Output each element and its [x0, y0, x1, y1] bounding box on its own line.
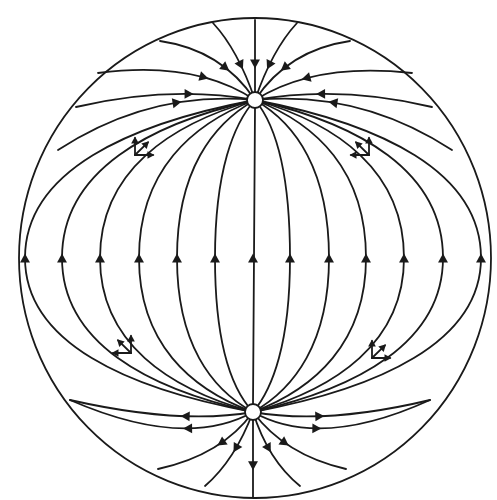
arrowhead-icon: [217, 436, 227, 445]
arrowhead-icon: [285, 254, 295, 263]
bottom-node-icon: [245, 404, 261, 420]
flow-lines-meridians: [20, 100, 486, 412]
arrowhead-icon: [134, 254, 144, 263]
vector-glyph: [368, 340, 391, 362]
arrowhead-icon: [316, 89, 325, 99]
arrowhead-icon: [476, 254, 486, 263]
arrowhead-icon: [20, 254, 30, 263]
arrowhead-icon: [312, 423, 321, 433]
arrowhead-icon: [248, 461, 258, 470]
arrowhead-icon: [148, 151, 155, 159]
arrowhead-icon: [172, 254, 182, 263]
flow-line: [253, 100, 443, 412]
arrowhead-icon: [315, 411, 324, 421]
arrowhead-icon: [361, 254, 371, 263]
phase-portrait-svg: [0, 0, 497, 500]
phase-portrait-figure: [0, 0, 497, 500]
arrowhead-icon: [95, 254, 105, 263]
arrowhead-icon: [185, 89, 194, 99]
arrowhead-icon: [399, 254, 409, 263]
top-node-icon: [247, 92, 263, 108]
flow-line: [253, 100, 366, 412]
arrowhead-icon: [350, 151, 357, 159]
flow-line: [253, 100, 290, 412]
flow-line: [253, 412, 346, 469]
flow-line: [158, 412, 253, 469]
arrowhead-icon: [438, 254, 448, 263]
arrowhead-icon: [219, 61, 229, 70]
arrowhead-icon: [324, 254, 334, 263]
arrowhead-icon: [302, 72, 312, 82]
arrowhead-icon: [248, 254, 258, 263]
flow-line: [215, 100, 255, 412]
flow-line: [253, 400, 430, 416]
arrowhead-icon: [328, 98, 338, 108]
arrowhead-icon: [210, 254, 220, 263]
arrowhead-icon: [181, 411, 190, 421]
arrowhead-icon: [250, 60, 260, 69]
arrowhead-icon: [278, 436, 288, 445]
arrowhead-icon: [281, 61, 291, 70]
flow-line: [98, 70, 255, 100]
arrowhead-icon: [172, 98, 182, 108]
flow-line: [255, 71, 412, 100]
arrowhead-icon: [57, 254, 67, 263]
arrowhead-icon: [127, 335, 135, 342]
arrowhead-icon: [183, 423, 192, 433]
vector-glyph: [112, 335, 135, 357]
flow-line: [62, 100, 255, 412]
arrowhead-icon: [131, 137, 139, 144]
flow-line: [70, 400, 253, 416]
arrowhead-icon: [198, 71, 208, 81]
